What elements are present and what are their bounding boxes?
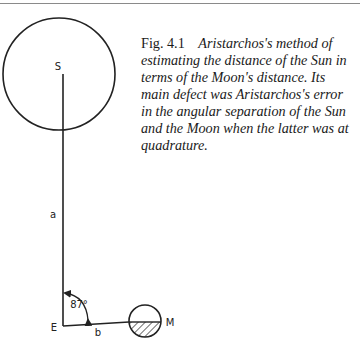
sun-label: S: [55, 61, 61, 72]
sun-circle: [3, 18, 115, 130]
earth-moon-line: [63, 322, 129, 326]
distance-a-label: a: [50, 209, 56, 220]
caption-text: Aristarchos's method of estimating the d…: [141, 35, 349, 153]
distance-b-label: b: [95, 327, 101, 338]
angle-label: 87°: [70, 299, 88, 310]
figure-caption: Fig. 4.1 Aristarchos's method of estimat…: [141, 35, 357, 154]
moon-label: M: [166, 317, 175, 328]
earth-label: E: [51, 322, 57, 333]
figure-number: Fig. 4.1: [141, 35, 185, 51]
